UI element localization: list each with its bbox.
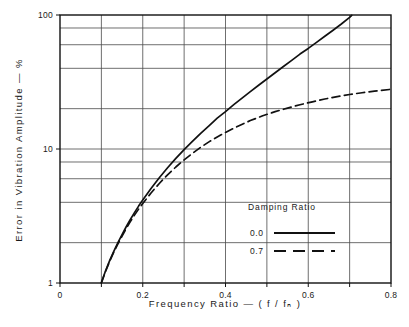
caption-strip [0, 320, 409, 327]
x-tick-label: 0.2 [136, 290, 149, 300]
figure-container: 00.20.40.60.8 110100 Frequency Ratio — (… [0, 0, 409, 327]
x-tick-label: 0.8 [385, 290, 398, 300]
chart-background [0, 0, 409, 327]
x-tick-label: 0.6 [302, 290, 315, 300]
y-tick-label: 10 [43, 144, 53, 154]
y-tick-label: 100 [38, 10, 53, 20]
legend-label-0-7: 0.7 [250, 246, 264, 256]
x-tick-label: 0 [57, 290, 62, 300]
x-axis-title: Frequency Ratio — ( f / fₙ ) [149, 298, 301, 309]
vibration-error-chart: 00.20.40.60.8 110100 Frequency Ratio — (… [0, 0, 409, 327]
legend-title: Damping Ratio [248, 202, 316, 212]
y-axis-title: Error in Vibration Amplitude — % [13, 58, 24, 242]
y-tick-label: 1 [48, 278, 53, 288]
legend-label-0-0: 0.0 [250, 228, 264, 238]
